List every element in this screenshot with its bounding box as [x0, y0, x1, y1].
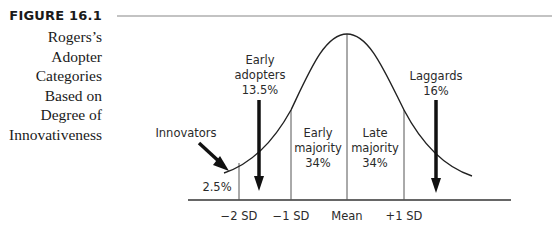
- late-majority-label-line2: majority: [351, 141, 399, 155]
- x-tick-mean: Mean: [331, 209, 362, 223]
- bell-curve-diagram: Innovators 2.5% Early adopters 13.5% Ear…: [0, 0, 552, 237]
- innovators-percent: 2.5%: [202, 180, 231, 194]
- laggards-label: Laggards: [410, 69, 463, 83]
- late-majority-label-line1: Late: [362, 126, 387, 140]
- innovators-label: Innovators: [155, 126, 216, 140]
- early-majority-label-line1: Early: [303, 126, 332, 140]
- early-majority-percent: 34%: [305, 156, 331, 170]
- laggards-arrowhead-icon: [431, 178, 441, 193]
- early-adopters-label-line2: adopters: [235, 68, 286, 82]
- early-majority-label-line2: majority: [294, 141, 342, 155]
- laggards-percent: 16%: [423, 84, 449, 98]
- early-adopters-arrowhead-icon: [254, 176, 264, 191]
- early-adopters-label-line1: Early: [245, 53, 274, 67]
- x-tick-plus-1sd: +1 SD: [386, 209, 423, 223]
- early-adopters-percent: 13.5%: [242, 83, 279, 97]
- x-tick-minus-2sd: −2 SD: [221, 209, 258, 223]
- x-tick-minus-1sd: −1 SD: [273, 209, 310, 223]
- late-majority-percent: 34%: [362, 156, 388, 170]
